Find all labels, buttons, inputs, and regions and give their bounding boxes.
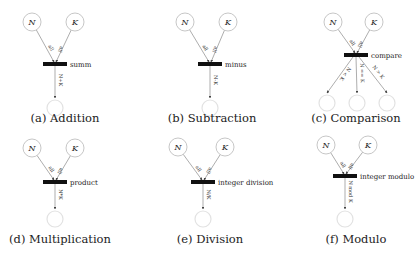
place-label: K bbox=[364, 141, 372, 150]
output-place[interactable] bbox=[47, 211, 63, 227]
transition-label: product bbox=[70, 179, 98, 187]
input-arc bbox=[211, 30, 224, 62]
output-arc-label: N > K bbox=[371, 64, 385, 80]
panel-c: allallNKcompareN < KN == KN > K(c) Compa… bbox=[311, 13, 402, 125]
output-arc-label: N mod K bbox=[348, 180, 354, 203]
place-label: K bbox=[221, 143, 229, 152]
place-label: K bbox=[224, 18, 232, 27]
input-arc bbox=[204, 155, 220, 180]
transition-bar[interactable] bbox=[333, 174, 357, 178]
transition-label: integer modulo bbox=[360, 173, 414, 181]
place-label: N bbox=[181, 18, 190, 27]
place-label: N bbox=[28, 18, 37, 27]
panel-caption: (b) Subtraction bbox=[168, 111, 257, 125]
transition-bar[interactable] bbox=[43, 180, 67, 184]
panel-d: allallNKproductN*K(d) Multiplication bbox=[9, 139, 111, 246]
panel-a: allallNKsummN+K(a) Addition bbox=[23, 13, 100, 125]
place-label: N bbox=[329, 18, 338, 27]
output-place[interactable] bbox=[195, 211, 211, 227]
panel-caption: (c) Comparison bbox=[311, 111, 401, 125]
panel-b: allallNKminusN-K(b) Subtraction bbox=[168, 13, 257, 125]
transition-bar[interactable] bbox=[344, 53, 368, 57]
place-label: K bbox=[71, 144, 79, 153]
input-arc-label: all bbox=[57, 46, 65, 55]
transition-label: integer division bbox=[218, 179, 274, 187]
place-label: K bbox=[71, 18, 79, 27]
place-label: K bbox=[370, 18, 378, 27]
panel-caption: (a) Addition bbox=[31, 111, 100, 125]
input-arc-label: all bbox=[47, 44, 55, 53]
input-arc bbox=[346, 152, 363, 174]
input-arc-label: all bbox=[357, 41, 365, 50]
input-arc-label: all bbox=[205, 167, 214, 176]
transition-bar[interactable] bbox=[191, 180, 215, 184]
panel-caption: (d) Multiplication bbox=[9, 232, 111, 246]
input-arc-label: all bbox=[56, 167, 65, 176]
output-arc-label: N-K bbox=[213, 75, 219, 85]
panel-e: allallNKinteger divisionN/K(e) Division bbox=[169, 138, 274, 246]
input-arc-label: all bbox=[347, 162, 356, 171]
output-arc-label: N == K bbox=[359, 63, 366, 83]
transition-label: compare bbox=[371, 52, 402, 60]
transition-bar[interactable] bbox=[198, 62, 222, 66]
output-place[interactable] bbox=[337, 211, 353, 227]
place-label: N bbox=[28, 144, 37, 153]
output-arc bbox=[356, 57, 357, 93]
petri-net-figure: allallNKsummN+K(a) AdditionallallNKminus… bbox=[0, 0, 417, 263]
place-label: N bbox=[322, 141, 331, 150]
output-arc-label: N/K bbox=[206, 190, 212, 200]
panel-caption: (f) Modulo bbox=[326, 232, 387, 246]
transition-label: minus bbox=[225, 61, 247, 69]
output-place[interactable] bbox=[349, 95, 365, 111]
panel-f: allallNKinteger moduloN mod K(f) Modulo bbox=[317, 136, 414, 246]
place-label: N bbox=[174, 143, 183, 152]
output-place[interactable] bbox=[379, 95, 395, 111]
input-arc-label: all bbox=[211, 46, 219, 54]
input-arc bbox=[56, 156, 70, 180]
input-arc bbox=[56, 30, 71, 62]
transition-bar[interactable] bbox=[43, 62, 67, 66]
output-arc-label: N*K bbox=[58, 189, 64, 200]
output-arc-label: N+K bbox=[58, 74, 64, 87]
transition-label: summ bbox=[70, 61, 92, 69]
panel-caption: (e) Division bbox=[177, 232, 244, 246]
output-place[interactable] bbox=[319, 95, 335, 111]
